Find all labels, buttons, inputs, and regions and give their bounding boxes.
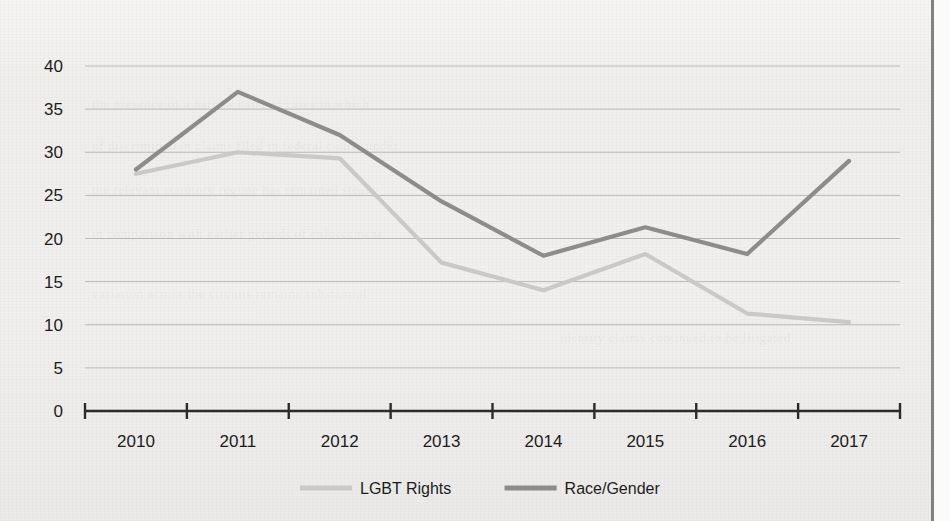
y-axis-tick-label: 35 [44,100,63,119]
x-axis-tick-label: 2015 [626,432,664,451]
x-axis-tick-labels: 20102011201220132014201520162017 [117,432,868,451]
x-axis [85,403,900,419]
series-lines [136,92,849,322]
x-axis-tick-label: 2017 [830,432,868,451]
series-line-race-gender [136,92,849,256]
gridlines [85,66,900,368]
series-line-lgbt-rights [136,152,849,322]
y-axis-tick-label: 20 [44,230,63,249]
x-axis-tick-label: 2012 [321,432,359,451]
chart-legend: LGBT RightsRace/Gender [300,480,660,497]
y-axis-tick-label: 25 [44,186,63,205]
y-axis-tick-label: 5 [54,359,63,378]
x-axis-tick-label: 2013 [423,432,461,451]
chart-canvas: 0510152025303540 20102011201220132014201… [0,0,950,521]
y-axis-tick-labels: 0510152025303540 [44,57,63,421]
y-axis-tick-label: 15 [44,273,63,292]
line-chart: 0510152025303540 20102011201220132014201… [0,0,950,521]
y-axis-tick-label: 40 [44,57,63,76]
legend-label: Race/Gender [565,480,661,497]
x-axis-tick-label: 2014 [525,432,563,451]
legend-label: LGBT Rights [360,480,451,497]
x-axis-tick-label: 2016 [728,432,766,451]
y-axis-tick-label: 10 [44,316,63,335]
y-axis-tick-label: 0 [54,402,63,421]
x-axis-tick-label: 2010 [117,432,155,451]
y-axis-tick-label: 30 [44,143,63,162]
x-axis-tick-label: 2011 [220,432,257,451]
